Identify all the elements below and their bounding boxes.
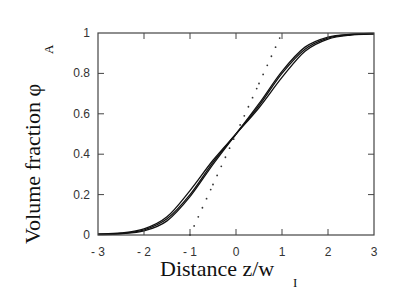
dotted-line-point <box>210 189 212 191</box>
plot-area <box>98 33 374 235</box>
dotted-line-point <box>202 207 204 209</box>
x-tick-label: 3 <box>371 245 378 259</box>
dotted-line-point <box>229 147 231 149</box>
dotted-line-point <box>271 55 273 57</box>
dotted-line-point <box>243 115 245 117</box>
dotted-line-point <box>256 88 258 90</box>
x-tick-label: 1 <box>279 245 286 259</box>
dotted-line-point <box>266 64 268 66</box>
dotted-line-point <box>239 124 241 126</box>
x-tick-label: - 2 <box>137 245 151 259</box>
dotted-line-point <box>262 74 264 76</box>
x-tick-label: - 3 <box>91 245 105 259</box>
y-axis-label: Volume fraction φ <box>20 84 45 244</box>
y-axis-label-subscript: A <box>41 44 56 54</box>
dotted-line-point <box>233 138 235 140</box>
y-tick-labels: 00.20.40.60.81 <box>73 26 90 242</box>
y-tick-label: 0.4 <box>73 147 90 161</box>
y-tick-label: 1 <box>83 26 90 40</box>
x-tick-label: 2 <box>325 245 332 259</box>
y-tick-label: 0.2 <box>73 188 90 202</box>
y-tick-label: 0.8 <box>73 66 90 80</box>
dotted-line-point <box>235 133 237 135</box>
dotted-line-point <box>206 198 208 200</box>
dotted-line-point <box>193 225 195 227</box>
dotted-line-point <box>225 156 227 158</box>
dotted-line-point <box>275 46 277 48</box>
dotted-line-point <box>197 216 199 218</box>
dotted-line-point <box>220 165 222 167</box>
chart: - 3- 2- 10123 00.20.40.60.81 Distance z/… <box>0 0 397 303</box>
x-axis-label: Distance z/w <box>160 256 274 281</box>
dotted-line-point <box>212 184 214 186</box>
dotted-line-point <box>216 175 218 177</box>
y-tick-label: 0.6 <box>73 107 90 121</box>
y-tick-label: 0 <box>83 228 90 242</box>
x-axis-label-subscript: I <box>293 275 297 290</box>
dotted-line-point <box>258 83 260 85</box>
dotted-line-point <box>248 106 250 108</box>
dotted-line-point <box>279 37 281 39</box>
dotted-line-point <box>252 97 254 99</box>
